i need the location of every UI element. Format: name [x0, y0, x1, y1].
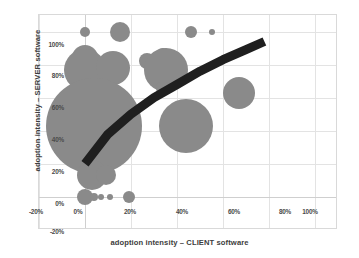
x-tick-label-40: 40% — [162, 208, 202, 215]
x-tick-label-neg20: -20% — [16, 208, 56, 215]
chart-canvas: 100% 80% 60% 40% 20% 0% -20% -20% 0% 20%… — [0, 0, 359, 258]
x-tick-label-0: 0% — [58, 208, 98, 215]
x-tick-label-20: 20% — [110, 208, 150, 215]
x-axis-title: adoption intensity – CLIENT software — [0, 238, 359, 247]
plot-inner — [39, 15, 336, 228]
y-tick-label-neg20: -20% — [34, 228, 64, 235]
x-tick-label-60: 60% — [214, 208, 254, 215]
plot-area — [38, 14, 337, 229]
y-tick-label-0: 0% — [36, 200, 64, 207]
x-tick-label-100: 100% — [290, 208, 330, 215]
trend-line — [39, 15, 336, 228]
y-axis-title: adoption intensity – SERVER software — [33, 16, 42, 186]
